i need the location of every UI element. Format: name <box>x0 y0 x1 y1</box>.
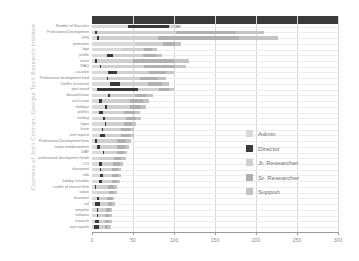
bar-segment[interactable] <box>135 94 146 97</box>
bar-segment[interactable] <box>132 122 136 125</box>
bar-segment[interactable] <box>117 71 150 74</box>
bar-segment[interactable] <box>112 202 114 205</box>
bar-row[interactable] <box>92 128 134 131</box>
bar-segment[interactable] <box>98 208 106 211</box>
bar-row[interactable] <box>92 157 126 160</box>
bar-segment[interactable] <box>144 65 175 68</box>
bar-segment[interactable] <box>92 48 122 51</box>
bar-segment[interactable] <box>110 208 112 211</box>
bar-row[interactable] <box>92 180 120 183</box>
bar-row[interactable] <box>92 168 121 171</box>
bar-segment[interactable] <box>118 174 121 177</box>
bar-row[interactable] <box>92 77 166 80</box>
bar-segment[interactable] <box>124 122 132 125</box>
bar-segment[interactable] <box>96 185 107 188</box>
bar-segment[interactable] <box>109 220 111 223</box>
bar-segment[interactable] <box>120 162 123 165</box>
bar-segment[interactable] <box>97 139 117 142</box>
bar-row[interactable] <box>92 122 136 125</box>
bar-segment[interactable] <box>100 145 116 148</box>
bar-segment[interactable] <box>130 134 134 137</box>
bar-segment[interactable] <box>110 94 135 97</box>
bar-segment[interactable] <box>103 128 121 131</box>
bar-segment[interactable] <box>140 77 158 80</box>
bar-row[interactable] <box>92 185 117 188</box>
bar-segment[interactable] <box>130 99 143 102</box>
bar-segment[interactable] <box>125 145 129 148</box>
bar-segment[interactable] <box>103 174 113 177</box>
bar-segment[interactable] <box>156 54 163 57</box>
bar-segment[interactable] <box>143 54 156 57</box>
bar-row[interactable] <box>92 174 121 177</box>
bar-segment[interactable] <box>92 128 102 131</box>
bar-segment[interactable] <box>149 71 165 74</box>
bar-row[interactable] <box>92 111 140 114</box>
bar-segment[interactable] <box>146 94 153 97</box>
bar-segment[interactable] <box>114 185 117 188</box>
bar-segment[interactable] <box>162 82 169 85</box>
bar-row[interactable] <box>92 71 174 74</box>
bar-segment[interactable] <box>114 157 121 160</box>
legend-item[interactable]: Sr. Researcher <box>246 174 299 181</box>
bar-segment[interactable] <box>92 77 107 80</box>
bar-segment[interactable] <box>124 111 135 114</box>
bar-row[interactable] <box>92 214 112 217</box>
bar-segment[interactable] <box>135 111 140 114</box>
bar-segment[interactable] <box>114 191 116 194</box>
bar-segment[interactable] <box>92 42 135 45</box>
bar-segment[interactable] <box>175 42 182 45</box>
bar-segment[interactable] <box>126 139 131 142</box>
bar-row[interactable] <box>92 208 112 211</box>
bar-segment[interactable] <box>148 82 163 85</box>
bar-segment[interactable] <box>92 25 128 28</box>
bar-segment[interactable] <box>163 42 174 45</box>
bar-segment[interactable] <box>121 134 129 137</box>
bar-segment[interactable] <box>92 71 108 74</box>
bar-segment[interactable] <box>92 82 110 85</box>
bar-segment[interactable] <box>152 48 157 51</box>
bar-row[interactable] <box>92 82 169 85</box>
bar-segment[interactable] <box>158 77 166 80</box>
bar-segment[interactable] <box>236 31 264 34</box>
legend-item[interactable]: Support <box>246 188 299 195</box>
bar-segment[interactable] <box>117 139 127 142</box>
bar-segment[interactable] <box>92 54 107 57</box>
bar-segment[interactable] <box>128 25 169 28</box>
bar-segment[interactable] <box>108 77 139 80</box>
bar-segment[interactable] <box>120 82 148 85</box>
bar-segment[interactable] <box>117 180 120 183</box>
bar-row[interactable] <box>92 59 189 62</box>
bar-segment[interactable] <box>239 36 278 39</box>
bar-segment[interactable] <box>166 71 174 74</box>
bar-segment[interactable] <box>101 65 144 68</box>
bar-segment[interactable] <box>138 88 159 91</box>
bar-segment[interactable] <box>179 25 181 28</box>
bar-segment[interactable] <box>102 99 130 102</box>
bar-row[interactable] <box>92 162 123 165</box>
bar-segment[interactable] <box>121 157 125 160</box>
bar-segment[interactable] <box>117 145 125 148</box>
bar-row[interactable] <box>92 88 174 91</box>
bar-row[interactable] <box>92 99 149 102</box>
bar-segment[interactable] <box>135 42 163 45</box>
bar-row[interactable] <box>92 220 112 223</box>
bar-segment[interactable] <box>130 105 141 108</box>
bar-segment[interactable] <box>99 197 107 200</box>
bar-segment[interactable] <box>158 36 238 39</box>
bar-segment[interactable] <box>92 105 105 108</box>
bar-segment[interactable] <box>105 117 126 120</box>
bar-segment[interactable] <box>175 65 186 68</box>
bar-segment[interactable] <box>92 94 108 97</box>
bar-segment[interactable] <box>141 105 146 108</box>
bar-segment[interactable] <box>92 168 100 171</box>
bar-row[interactable] <box>92 48 157 51</box>
bar-segment[interactable] <box>110 82 120 85</box>
bar-row[interactable] <box>92 134 134 137</box>
bar-segment[interactable] <box>92 122 105 125</box>
bar-row[interactable] <box>92 139 131 142</box>
bar-segment[interactable] <box>136 117 141 120</box>
legend-item[interactable]: Admin <box>246 130 299 137</box>
bar-row[interactable] <box>92 65 186 68</box>
bar-segment[interactable] <box>99 157 114 160</box>
bar-segment[interactable] <box>144 48 152 51</box>
